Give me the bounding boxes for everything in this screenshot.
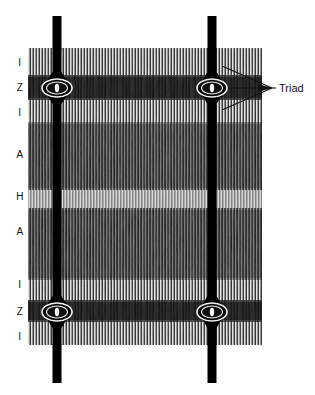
muscle-micrograph	[0, 0, 315, 395]
triad-bottom-left	[42, 303, 72, 321]
band-label-a-2: A	[10, 227, 30, 237]
triad-callout-label: Triad	[279, 82, 304, 94]
band-label-i-4: I	[10, 332, 30, 342]
band-label-i-2: I	[10, 108, 30, 118]
band-label-i-3: I	[10, 280, 30, 290]
triad-top-right	[197, 79, 227, 97]
band-label-a-1: A	[10, 150, 30, 160]
band-label-z-2: Z	[10, 307, 30, 317]
fiber-body	[28, 48, 262, 345]
band-label-h: H	[10, 192, 30, 202]
band-label-z-1: Z	[10, 83, 30, 93]
band-label-i-1: I	[10, 58, 30, 68]
triad-bottom-right	[197, 303, 227, 321]
triad-top-left	[42, 79, 72, 97]
sarcomere-figure: I Z I A H A I Z I Triad	[0, 0, 315, 395]
